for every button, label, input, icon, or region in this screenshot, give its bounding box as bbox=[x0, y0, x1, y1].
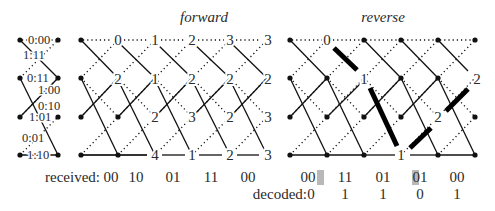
path-metric: 2 bbox=[226, 109, 234, 125]
edge-label: 1:01 bbox=[29, 110, 51, 124]
path-metric: 2 bbox=[226, 147, 234, 163]
received-row: received: 00 10 01 11 00 00 11 01 01 00 bbox=[45, 169, 464, 185]
decoded-label: decoded: bbox=[253, 186, 307, 202]
reverse-title: reverse bbox=[361, 9, 405, 25]
error-highlight bbox=[317, 170, 324, 185]
path-metric: 1 bbox=[151, 71, 159, 87]
state-transition-diagram: 0:00 1:11 0:11 1:00 0:10 1:01 0:01 1:10 bbox=[17, 33, 60, 162]
decoded-row: decoded: 0 1 1 0 1 bbox=[253, 186, 461, 202]
decoded-bit: 1 bbox=[341, 186, 349, 202]
path-metric: 3 bbox=[264, 147, 272, 163]
path-metric: 0 bbox=[114, 32, 122, 48]
path-metric: 2 bbox=[264, 71, 272, 87]
received-symbol: 00 bbox=[241, 169, 256, 185]
path-metric: 2 bbox=[188, 71, 196, 87]
edge-labels: 0:00 1:11 0:11 1:00 0:10 1:01 0:01 1:10 bbox=[22, 33, 60, 162]
decoded-bit: 0 bbox=[416, 186, 424, 202]
path-metric: 1 bbox=[360, 71, 368, 87]
path-metric: 2 bbox=[114, 71, 122, 87]
received-label: received: bbox=[45, 169, 100, 185]
path-metric: 2 bbox=[226, 71, 234, 87]
path-metric: 3 bbox=[264, 32, 272, 48]
path-metric: 3 bbox=[188, 109, 196, 125]
received-symbol: 01 bbox=[166, 169, 181, 185]
decoded-bit: 1 bbox=[379, 186, 387, 202]
path-metric: 1 bbox=[397, 147, 405, 163]
path-metric: 4 bbox=[151, 147, 159, 163]
path-metric: 2 bbox=[151, 109, 159, 125]
received-symbol: 00 bbox=[104, 169, 119, 185]
received-symbol: 11 bbox=[204, 169, 218, 185]
received-symbol: 01 bbox=[376, 169, 391, 185]
received-symbol: 10 bbox=[129, 169, 144, 185]
edge-label: 1:00 bbox=[38, 83, 60, 97]
path-metric: 3 bbox=[264, 109, 272, 125]
edge-label: 0:01 bbox=[22, 131, 44, 145]
decoded-bit: 0 bbox=[307, 186, 315, 202]
received-symbol: 11 bbox=[338, 169, 352, 185]
edge-label: 1:11 bbox=[23, 48, 45, 62]
received-symbol: 00 bbox=[301, 169, 316, 185]
reverse-trellis: reverse bbox=[287, 9, 480, 163]
forward-title: forward bbox=[180, 9, 228, 25]
received-symbol: 00 bbox=[450, 169, 465, 185]
path-metric: 2 bbox=[188, 32, 196, 48]
edge-label: 0:00 bbox=[28, 33, 50, 47]
decoded-bit: 1 bbox=[453, 186, 461, 202]
path-metric: 2 bbox=[434, 109, 442, 125]
edge-label: 1:10 bbox=[27, 148, 49, 162]
path-metric: 1 bbox=[151, 32, 159, 48]
path-metric: 1 bbox=[188, 147, 196, 163]
viterbi-trellis-diagram: .solid { stroke: #111; stroke-width: 1.3… bbox=[0, 0, 495, 211]
path-metric: 2 bbox=[473, 71, 481, 87]
received-symbol: 01 bbox=[413, 169, 428, 185]
path-metric: 0 bbox=[323, 32, 331, 48]
forward-trellis: forward bbox=[78, 9, 271, 163]
path-metric: 3 bbox=[226, 32, 234, 48]
